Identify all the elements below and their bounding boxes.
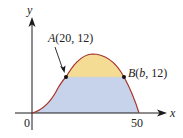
point-a-coords: (20, 12) — [55, 31, 93, 45]
point-a-pointer-arrow-icon — [60, 66, 66, 74]
upper-shaded-region — [66, 54, 124, 77]
point-a-marker — [64, 75, 68, 79]
lower-shaded-region — [32, 77, 139, 113]
point-a-label: A(20, 12) — [47, 31, 93, 45]
origin-label: 0 — [24, 116, 30, 130]
point-a-pointer — [55, 47, 63, 70]
x-axis-label: x — [169, 106, 176, 120]
point-b-marker — [122, 75, 126, 79]
point-b-label: B(b, 12) — [128, 66, 167, 80]
diagram-canvas: y x 0 50 A(20, 12) B(b, 12) — [0, 0, 183, 138]
x-tick-label-50: 50 — [131, 116, 143, 130]
y-axis-label: y — [26, 3, 33, 17]
